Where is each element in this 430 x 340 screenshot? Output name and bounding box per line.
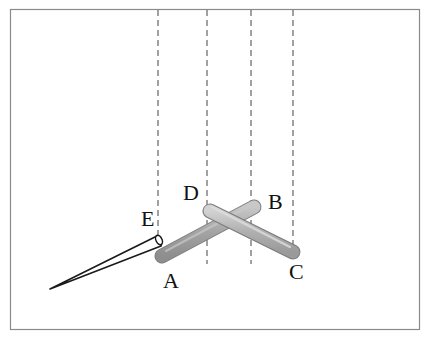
label-a: A bbox=[163, 270, 179, 292]
label-e: E bbox=[141, 208, 154, 230]
label-b: B bbox=[268, 191, 283, 213]
label-d: D bbox=[183, 182, 199, 204]
diagram-canvas bbox=[0, 0, 430, 340]
figure-frame bbox=[11, 10, 420, 330]
diagram-figure: A B C D E bbox=[0, 0, 430, 340]
label-c: C bbox=[289, 261, 304, 283]
